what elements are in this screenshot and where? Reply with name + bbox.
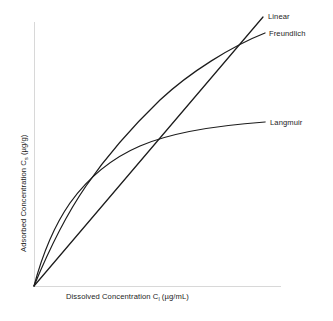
adsorption-isotherm-chart: Linear Freundlich Langmuir Dissolved Con… (0, 0, 333, 321)
y-axis-title-prefix: Adsorbed Concentration C (19, 160, 28, 252)
y-axis-title-units: (µg/g) (19, 135, 28, 158)
y-axis-title-subscript: s (23, 157, 29, 160)
x-axis-title: Dissolved Concentration Cl (µg/mL) (66, 293, 189, 301)
x-axis-title-units: (µg/mL) (160, 292, 189, 301)
curve-linear (34, 17, 263, 286)
x-axis-title-prefix: Dissolved Concentration C (66, 292, 158, 301)
curve-langmuir (34, 122, 265, 286)
plot-area (0, 0, 333, 321)
y-axis-title: Adsorbed Concentration Cs (µg/g) (20, 135, 28, 253)
curve-freundlich (34, 33, 265, 286)
series-label-linear: Linear (268, 13, 290, 21)
series-label-langmuir: Langmuir (270, 119, 302, 127)
x-axis-title-subscript: l (158, 296, 159, 302)
series-label-freundlich: Freundlich (269, 30, 305, 38)
